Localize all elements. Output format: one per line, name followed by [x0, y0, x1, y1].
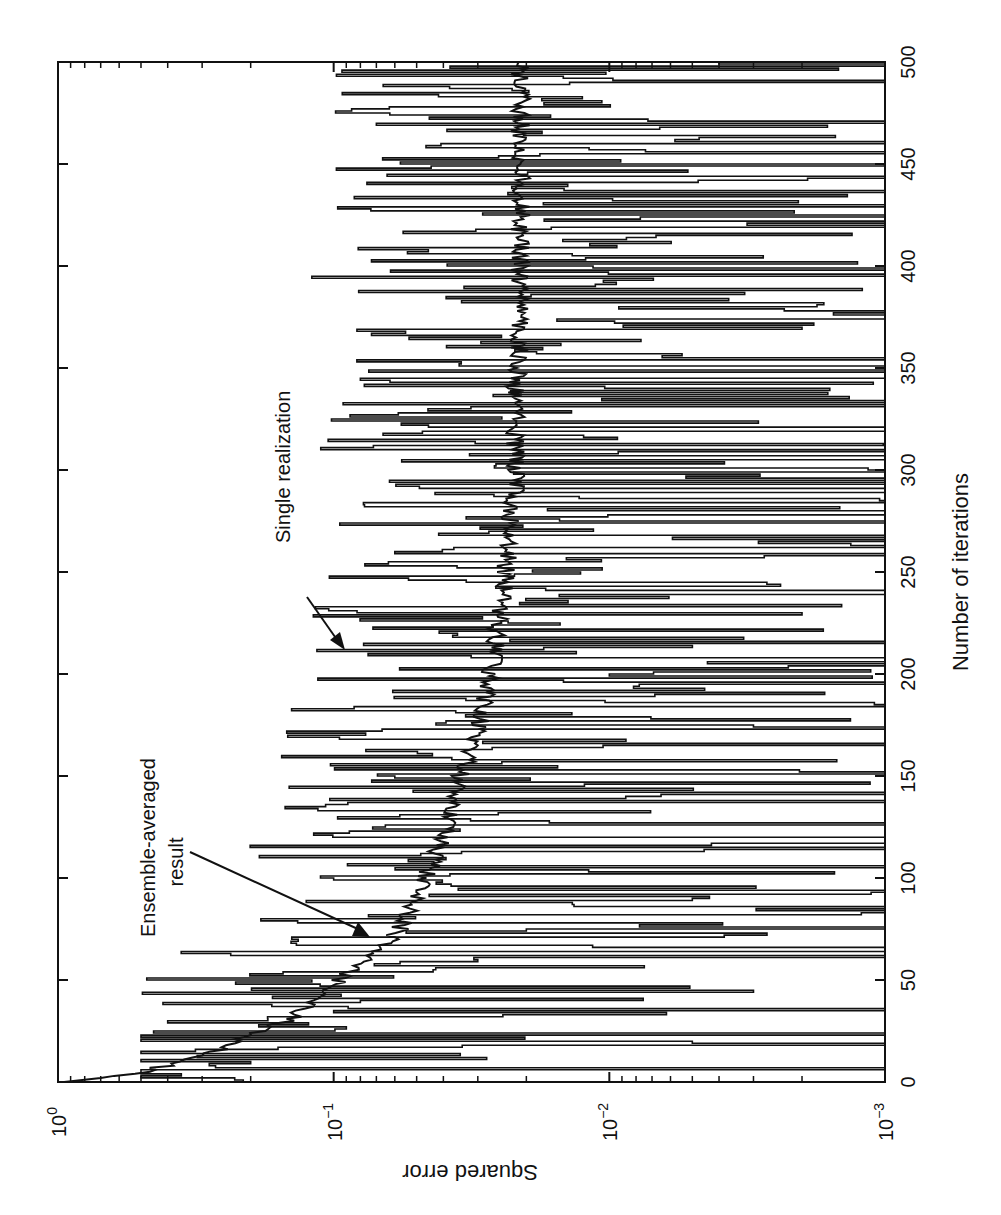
x-tick-label: 0 [897, 1076, 919, 1087]
y-tick-label: 10−3 [871, 1103, 897, 1141]
y-tick-label: 10−1 [320, 1103, 346, 1141]
arrowhead-icon [352, 922, 370, 937]
x-tick-label: 50 [897, 969, 919, 991]
annotation-ensemble-label-line1: Ensemble-averaged [137, 758, 159, 937]
x-axis-title: Number of iterations [948, 473, 973, 671]
x-tick-label: 350 [897, 351, 919, 384]
y-tick-label: 10−2 [595, 1103, 621, 1141]
x-tick-label: 200 [897, 657, 919, 690]
x-tick-label: 500 [897, 45, 919, 78]
annotation-ensemble-label-line2: result [165, 837, 187, 886]
chart: 10010−110−210−3 050100150200250300350400… [0, 0, 1001, 1215]
y-axis-title: Squared error [402, 1160, 538, 1185]
x-tick-labels: 050100150200250300350400450500 [897, 45, 919, 1087]
single-realization-series [141, 62, 885, 1082]
annotation-single-realization-label: Single realization [272, 391, 294, 543]
ensemble-average-series [64, 62, 530, 1082]
y-tick-label: 100 [44, 1107, 70, 1137]
y-tick-labels: 10010−110−210−3 [44, 1103, 897, 1141]
x-tick-label: 450 [897, 147, 919, 180]
x-tick-label: 250 [897, 555, 919, 588]
x-tick-label: 150 [897, 759, 919, 792]
x-tick-label: 100 [897, 861, 919, 894]
x-tick-label: 400 [897, 249, 919, 282]
x-tick-label: 300 [897, 453, 919, 486]
